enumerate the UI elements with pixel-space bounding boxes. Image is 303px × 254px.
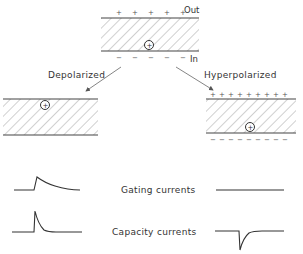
svg-text:−: −	[164, 54, 170, 62]
outside-label: Out	[184, 5, 200, 15]
svg-text:+: +	[43, 102, 49, 110]
svg-text:+: +	[228, 91, 234, 99]
svg-text:+: +	[219, 91, 225, 99]
hyperpolarized-label: Hyperpolarized	[204, 70, 277, 80]
membrane-diagram: + + + + + Out + − − − − − In Depolarized	[0, 0, 303, 254]
resting-membrane: + + + + + Out + − − − − − In	[101, 5, 200, 64]
svg-text:+: +	[248, 124, 254, 132]
svg-text:+: +	[148, 9, 154, 17]
svg-text:−: −	[210, 136, 216, 144]
svg-text:+: +	[282, 91, 288, 99]
capacity-current-depolarized-trace	[12, 211, 82, 232]
capacity-current-hyperpolarized-trace	[215, 231, 284, 250]
svg-text:−: −	[246, 136, 252, 144]
inner-minus-charges: − − − − −	[116, 54, 186, 62]
svg-text:−: −	[237, 136, 243, 144]
svg-text:+: +	[273, 91, 279, 99]
svg-text:−: −	[219, 136, 225, 144]
svg-text:+: +	[237, 91, 243, 99]
inner-minus-charges: − − − − − − − − −	[210, 136, 288, 144]
outer-plus-charges: + + + + +	[116, 9, 186, 17]
svg-text:+: +	[132, 9, 138, 17]
svg-text:+: +	[164, 9, 170, 17]
mobile-charge: +	[41, 101, 50, 111]
mobile-charge: +	[246, 123, 255, 133]
svg-text:+: +	[116, 9, 122, 17]
depolarized-membrane: +	[3, 99, 98, 135]
svg-text:+: +	[246, 91, 252, 99]
depolarized-label: Depolarized	[48, 70, 105, 80]
svg-text:+: +	[264, 91, 270, 99]
svg-text:−: −	[255, 136, 261, 144]
hyperpolarized-membrane: + + + + + + + + + + − − − − − − − − −	[206, 91, 296, 144]
inside-label: In	[190, 54, 198, 64]
mobile-charge: +	[145, 41, 154, 51]
gating-currents-label: Gating currents	[121, 185, 195, 195]
svg-text:+: +	[147, 42, 153, 50]
svg-text:−: −	[148, 54, 154, 62]
svg-text:−: −	[116, 54, 122, 62]
svg-text:−: −	[132, 54, 138, 62]
svg-text:−: −	[264, 136, 270, 144]
gating-current-depolarized-trace	[14, 177, 80, 190]
svg-text:+: +	[255, 91, 261, 99]
svg-text:+: +	[210, 91, 216, 99]
capacity-currents-label: Capacity currents	[112, 227, 196, 237]
svg-text:−: −	[228, 136, 234, 144]
svg-text:−: −	[282, 136, 288, 144]
outer-plus-charges: + + + + + + + + +	[210, 91, 288, 99]
svg-text:−: −	[273, 136, 279, 144]
svg-text:−: −	[180, 54, 186, 62]
